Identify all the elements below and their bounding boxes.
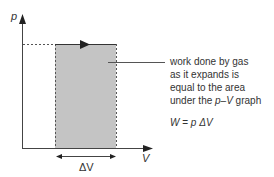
description-line-1: work done by gas [170,55,261,68]
formula: W = p ΔV [170,116,261,129]
y-axis-arrow-icon [19,14,26,24]
description-text: work done by gas as it expands is equal … [170,55,261,129]
work-area [55,44,116,148]
y-axis-label: p [11,10,17,23]
delta-v-label: ΔV [79,161,94,174]
delta-v-right-arrowhead-icon [110,154,116,159]
description-line-4: under the p–V graph [170,94,261,107]
x-axis-arrow-icon [143,145,153,152]
delta-v-left-arrowhead-icon [56,154,62,159]
x-axis-label: V [142,152,149,165]
description-line-2: as it expands is [170,68,261,81]
description-line-3: equal to the area [170,81,261,94]
